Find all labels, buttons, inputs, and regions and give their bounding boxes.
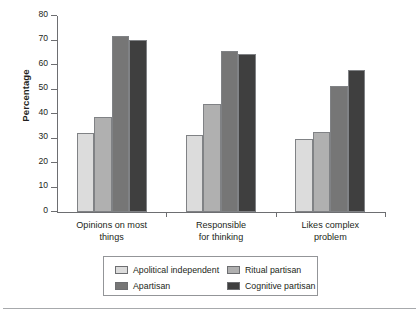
legend-label: Ritual partisan <box>245 265 301 275</box>
legend-item[interactable]: Apolitical independent <box>115 265 219 275</box>
bar <box>313 132 331 212</box>
bar <box>238 54 256 212</box>
legend-label: Apartisan <box>133 281 170 291</box>
category-label: Responsiblefor thinking <box>166 220 275 243</box>
legend-swatch <box>227 282 240 290</box>
bar <box>94 117 112 212</box>
bar-chart-figure: Percentage 01020304050607080 Opinions on… <box>0 0 419 318</box>
legend-swatch <box>227 266 240 274</box>
category-label-line: Likes complex <box>276 220 385 232</box>
x-tick <box>276 212 277 217</box>
category-label-line: Responsible <box>166 220 275 232</box>
bar <box>330 86 348 212</box>
bar <box>348 70 366 212</box>
x-tick <box>385 212 386 217</box>
bar-group <box>166 16 275 212</box>
footer-divider <box>3 308 416 309</box>
y-tick-label: 60 <box>38 58 48 68</box>
legend-item[interactable]: Apartisan <box>115 281 170 291</box>
chart-legend: Apolitical independentRitual partisanApa… <box>103 256 318 296</box>
y-tick-label: 20 <box>38 156 48 166</box>
category-label-line: Opinions on most <box>57 220 166 232</box>
bar <box>221 51 239 212</box>
y-tick-label: 30 <box>38 131 48 141</box>
bar <box>112 36 130 212</box>
y-tick-label: 10 <box>38 180 48 190</box>
x-tick <box>166 212 167 217</box>
legend-item[interactable]: Ritual partisan <box>227 265 301 275</box>
category-label-line: for thinking <box>166 232 275 244</box>
legend-label: Apolitical independent <box>133 265 219 275</box>
y-tick-label: 80 <box>38 9 48 19</box>
y-tick-label: 70 <box>38 33 48 43</box>
bar <box>203 104 221 212</box>
category-label-line: things <box>57 232 166 244</box>
legend-label: Cognitive partisan <box>245 281 315 291</box>
x-axis-line <box>57 212 385 213</box>
legend-swatch <box>115 266 128 274</box>
y-tick-label: 40 <box>38 107 48 117</box>
y-tick-label: 0 <box>43 205 48 215</box>
bar-group <box>57 16 166 212</box>
legend-swatch <box>115 282 128 290</box>
category-label: Likes complexproblem <box>276 220 385 243</box>
bar <box>295 139 313 213</box>
y-axis-title: Percentage <box>20 51 31 141</box>
bar <box>186 135 204 212</box>
y-tick-label: 50 <box>38 82 48 92</box>
category-label: Opinions on mostthings <box>57 220 166 243</box>
category-label-line: problem <box>276 232 385 244</box>
legend-item[interactable]: Cognitive partisan <box>227 281 315 291</box>
plot-area: 01020304050607080 Opinions on mostthings… <box>57 16 385 213</box>
bar <box>129 40 147 212</box>
bar-group <box>276 16 385 212</box>
bar <box>77 133 95 212</box>
